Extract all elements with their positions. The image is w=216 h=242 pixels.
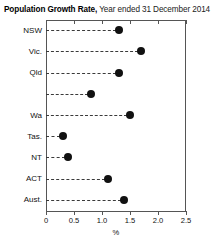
- leader-line: [46, 136, 60, 137]
- x-tick-label: 0.5: [59, 216, 89, 226]
- x-tick-1-5: [130, 211, 131, 215]
- category-row: NSW: [0, 24, 216, 38]
- category-row: Wa: [0, 109, 216, 123]
- data-point: [64, 153, 72, 161]
- category-label: Qld: [0, 66, 42, 80]
- category-row: ACT: [0, 172, 216, 186]
- x-tick-label: 2.0: [143, 216, 173, 226]
- data-point: [59, 132, 67, 140]
- leader-line: [46, 179, 105, 180]
- data-point: [120, 196, 128, 204]
- leader-line: [46, 94, 88, 95]
- leader-line: [46, 30, 116, 31]
- leader-line: [46, 157, 65, 158]
- category-row: Tas.: [0, 130, 216, 144]
- x-tick-0: [46, 211, 47, 215]
- category-row: Qld: [0, 66, 216, 80]
- category-label: NT: [0, 151, 42, 165]
- data-point: [137, 47, 145, 55]
- x-tick-label: 1.5: [115, 216, 145, 226]
- x-tick-1: [102, 211, 103, 215]
- data-point: [104, 175, 112, 183]
- category-label: ACT: [0, 172, 42, 186]
- x-tick-2-5: [186, 211, 187, 215]
- category-row: NT: [0, 151, 216, 165]
- x-tick-label: 0: [31, 216, 61, 226]
- leader-line: [46, 115, 127, 116]
- category-label: NSW: [0, 24, 42, 38]
- chart-plot-area: NSWVic.QldWaTas.NTACTAust. 00.51.01.52.0…: [0, 0, 216, 242]
- x-tick-label: 1.0: [87, 216, 117, 226]
- leader-line: [46, 200, 121, 201]
- category-row: Aust.: [0, 193, 216, 207]
- x-tick-label: 2.5: [171, 216, 201, 226]
- x-axis-title: %: [46, 228, 186, 238]
- x-tick-0-5: [74, 211, 75, 215]
- category-label: Vic.: [0, 45, 42, 59]
- category-row: [0, 87, 216, 101]
- category-row: Vic.: [0, 45, 216, 59]
- category-label: Wa: [0, 109, 42, 123]
- category-label: Tas.: [0, 130, 42, 144]
- x-tick-2: [158, 211, 159, 215]
- category-label: Aust.: [0, 193, 42, 207]
- data-point: [115, 26, 123, 34]
- data-point: [115, 69, 123, 77]
- leader-line: [46, 73, 116, 74]
- data-point: [126, 111, 134, 119]
- data-point: [87, 90, 95, 98]
- x-axis-line: [46, 211, 186, 212]
- leader-line: [46, 51, 138, 52]
